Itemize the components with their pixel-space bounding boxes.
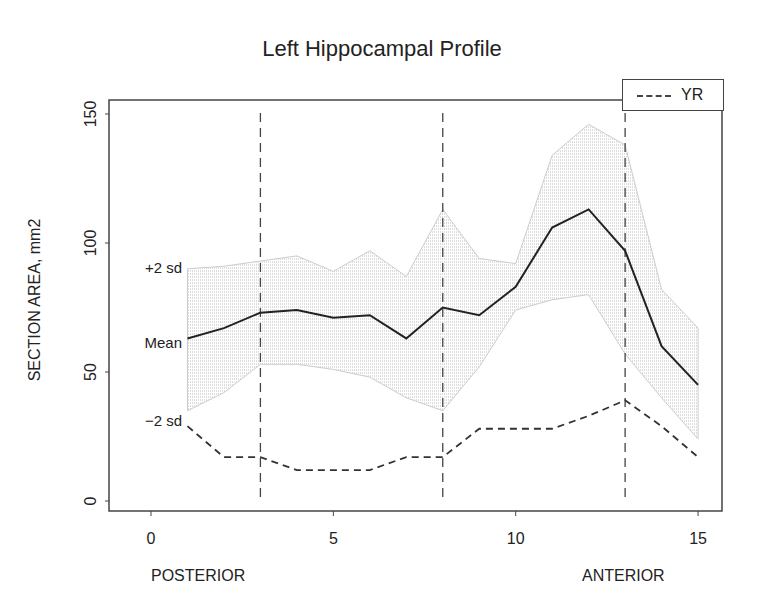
x-tick-label: 0 [147, 530, 156, 547]
y-tick-label: 100 [82, 230, 99, 257]
x-tick-label: 5 [329, 530, 338, 547]
x-label-posterior: POSTERIOR [151, 567, 245, 585]
x-tick-label: 15 [689, 530, 707, 547]
band-label: +2 sd [145, 259, 182, 276]
x-tick-label: 10 [507, 530, 525, 547]
x-label-anterior: ANTERIOR [582, 567, 665, 585]
y-tick-label: 0 [82, 496, 99, 505]
legend: YR [622, 79, 724, 111]
band-label: Mean [144, 334, 182, 351]
band-labels: +2 sdMean−2 sd [144, 259, 182, 429]
y-tick-label: 150 [82, 101, 99, 128]
band-label: −2 sd [145, 412, 182, 429]
legend-label-yr: YR [681, 86, 703, 104]
y-tick-label: 50 [82, 363, 99, 381]
legend-dash-swatch [637, 95, 671, 97]
chart-title: Left Hippocampal Profile [0, 36, 764, 62]
y-axis-label: SECTION AREA, mm2 [26, 219, 43, 382]
